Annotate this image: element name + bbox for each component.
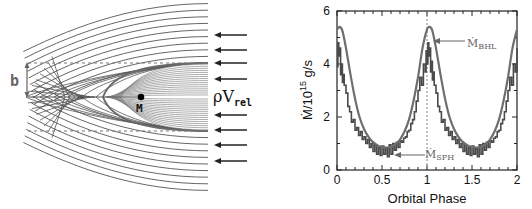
flow-label-base: ρV	[213, 87, 234, 106]
impact-parameter-label: b	[10, 72, 19, 90]
y-axis-label-base: Ṁ/10	[300, 91, 315, 120]
flow-arrow-icon	[214, 47, 247, 53]
y-axis-label-exponent: 15	[298, 81, 308, 91]
x-tick-label: 0	[334, 173, 341, 187]
x-tick-label: 1.5	[464, 173, 481, 187]
y-axis-label-unit: g/s	[300, 60, 315, 81]
flow-arrow-icon	[214, 142, 247, 148]
y-tick-label: 6	[323, 4, 330, 18]
annotation-bhl-base: Ṁ	[467, 36, 478, 50]
y-axis-label: Ṁ/1015 g/s	[298, 60, 315, 120]
annotation-sph-arrowhead-icon	[394, 152, 401, 158]
streamlines	[23, 4, 208, 191]
svg-text:ṀSPH: ṀSPH	[425, 147, 454, 162]
flow-arrow-icon	[214, 60, 247, 66]
annotation-bhl-sub: BHL	[478, 42, 497, 51]
accretion-flow-diagram: b M ρVrel	[10, 4, 252, 191]
svg-text:ṀBHL: ṀBHL	[467, 36, 497, 51]
annotation-sph: ṀSPH	[394, 147, 454, 162]
figure: b M ρVrel 00.511.520246 ṀBHL	[0, 0, 532, 209]
flow-arrow-icon	[214, 76, 247, 82]
flow-arrow-icon	[214, 32, 247, 38]
x-tick-label: 2	[514, 173, 521, 187]
mass-label: M	[136, 102, 143, 115]
flow-label: ρVrel	[213, 87, 252, 108]
impact-parameter-arrow-icon	[25, 62, 30, 98]
x-axis-label: Orbital Phase	[388, 191, 467, 206]
y-tick-label: 4	[323, 57, 330, 71]
y-tick-label: 2	[323, 110, 330, 124]
point-mass-dot	[138, 94, 145, 101]
streamline	[54, 63, 208, 97]
annotation-sph-sub: SPH	[436, 153, 454, 162]
flow-arrow-icon	[214, 112, 247, 118]
annotation-bhl: ṀBHL	[433, 36, 497, 51]
x-tick-label: 1	[424, 173, 431, 187]
tick-labels: 00.511.520246	[323, 4, 520, 187]
x-tick-label: 0.5	[374, 173, 391, 187]
annotation-sph-base: Ṁ	[425, 147, 436, 161]
flow-arrow-icon	[214, 127, 247, 133]
accretion-rate-chart: 00.511.520246 ṀBHL ṀSPH Ṁ/1015 g/s Orbit…	[298, 4, 521, 206]
flow-label-sub: rel	[234, 97, 252, 108]
streamline	[54, 97, 208, 131]
flow-arrow-icon	[214, 158, 247, 164]
y-tick-label: 0	[323, 163, 330, 177]
